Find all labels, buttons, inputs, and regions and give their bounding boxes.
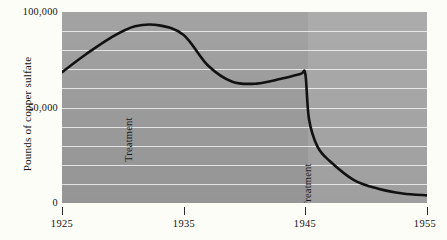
y-axis-title: Pounds of copper sulfate (21, 24, 33, 204)
annotation-treatment-second: Treatment (302, 163, 313, 203)
x-tick-label-1945: 1945 (294, 218, 316, 229)
plot-area: Treatment Treatment (62, 12, 427, 203)
x-tick-label-1935: 1935 (173, 218, 195, 229)
x-tick-1955 (427, 207, 428, 215)
x-tick-1935 (184, 207, 185, 215)
x-tick-label-1955: 1955 (414, 218, 436, 229)
x-tick-1925 (62, 207, 63, 215)
y-tick-label-100000: 100,000 (23, 6, 58, 17)
y-tick-label-50000: 50,000 (28, 102, 58, 113)
annotation-treatment-first: Treatment (123, 117, 134, 162)
chart-figure: Pounds of copper sulfate 100,000 50,000 … (0, 0, 447, 240)
x-tick-label-1925: 1925 (51, 218, 73, 229)
data-line-copper-sulfate (62, 12, 427, 203)
x-tick-1945 (305, 207, 306, 215)
y-tick-label-0: 0 (53, 197, 58, 208)
